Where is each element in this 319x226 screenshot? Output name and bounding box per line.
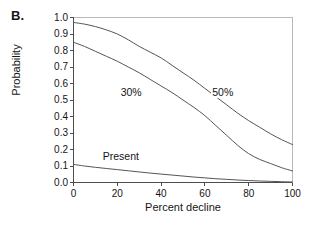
curve-50-percent	[74, 22, 293, 144]
figure-panel-b: B. Probability Percent decline 1.00.90.8…	[0, 0, 319, 226]
curve-present	[74, 164, 293, 182]
plot-area	[0, 0, 319, 226]
curve-label-30-percent: 30%	[120, 86, 143, 98]
curve-label-present: Present	[102, 150, 140, 162]
curve-label-50-percent: 50%	[211, 86, 234, 98]
